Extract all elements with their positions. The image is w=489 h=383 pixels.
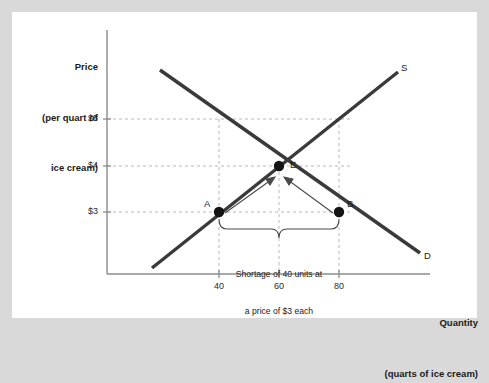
point-label-b: B xyxy=(347,198,353,210)
arrow-from-a-shaft xyxy=(225,180,271,213)
x-axis-subtitle: (quarts of ice cream) xyxy=(340,368,478,380)
y-tick-label-5: $5 xyxy=(72,113,98,124)
point-e-marker xyxy=(274,161,284,171)
curve-label-d: D xyxy=(424,250,431,262)
shortage-annotation-line1: Shortage of 40 units at xyxy=(199,268,359,280)
supply-curve xyxy=(152,72,398,268)
point-a-marker xyxy=(214,207,224,217)
x-axis-title: Quantity xyxy=(340,317,478,329)
axes xyxy=(107,30,430,274)
point-label-e: E xyxy=(290,159,296,171)
arrow-from-b-head xyxy=(284,177,293,185)
y-axis-title: Price xyxy=(18,61,98,73)
shortage-annotation: Shortage of 40 units at a price of $3 ea… xyxy=(199,243,359,343)
y-tick-label-3: $3 xyxy=(72,206,98,217)
x-axis-title-group: Quantity (quarts of ice cream) xyxy=(340,278,478,383)
point-b-marker xyxy=(334,207,344,217)
arrow-from-a-head xyxy=(266,177,275,185)
point-label-a: A xyxy=(204,198,210,210)
shortage-annotation-line2: a price of $3 each xyxy=(199,305,359,317)
y-tick-label-4: $4 xyxy=(72,160,98,171)
curve-label-s: S xyxy=(401,62,407,74)
